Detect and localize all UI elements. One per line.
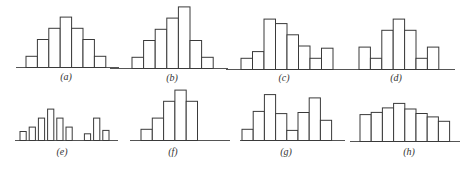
histogram-bar	[310, 58, 322, 69]
histogram-bar	[264, 95, 275, 141]
panel-caption: (e)	[56, 146, 68, 158]
histogram-panel-a: (a)	[16, 17, 119, 83]
histogram-bar	[94, 56, 105, 67]
histogram-panel-g: (g)	[240, 95, 345, 158]
histogram-bar	[276, 114, 287, 141]
histogram-bar	[405, 30, 416, 69]
histogram-bar	[309, 98, 320, 141]
histogram-bar	[48, 109, 54, 140]
histogram-bar	[299, 46, 311, 70]
panel-caption: (f)	[168, 146, 178, 158]
histogram-bar	[178, 7, 190, 69]
histogram-bar	[202, 57, 214, 68]
panel-caption: (a)	[60, 71, 72, 83]
histogram-bar	[320, 120, 331, 140]
histogram-bar	[94, 118, 100, 140]
histogram-bar	[370, 58, 381, 69]
histogram-panel-b: (b)	[110, 7, 228, 84]
histogram-figure: (a) (b) (c) (d) (e) (f) (g) (h)	[0, 0, 465, 174]
histogram-panel-d: (d)	[342, 19, 455, 84]
histogram-panel-h: (h)	[350, 103, 460, 158]
histogram-bar	[190, 41, 202, 69]
histogram-bar	[416, 58, 427, 69]
histogram-bar	[84, 134, 90, 141]
panel-caption: (h)	[403, 146, 415, 158]
histogram-bar	[83, 40, 94, 68]
histogram-bar	[298, 113, 309, 141]
histogram-bar	[427, 47, 438, 69]
histogram-bar	[141, 129, 152, 140]
histogram-bar	[371, 112, 382, 141]
histogram-bar	[287, 35, 299, 70]
histogram-panel-e: (e)	[15, 109, 118, 158]
histogram-bar	[242, 129, 253, 140]
histogram-bar	[144, 41, 156, 69]
histogram-bar	[132, 57, 144, 68]
panel-caption: (g)	[280, 146, 292, 158]
histogram-bar	[405, 109, 416, 142]
histogram-bar	[49, 28, 60, 67]
histogram-bar	[103, 130, 109, 140]
histogram-bar	[175, 90, 186, 140]
histogram-bar	[155, 29, 167, 68]
histogram-bar	[276, 24, 288, 70]
histogram-bar	[60, 17, 71, 67]
histogram-bar	[38, 118, 44, 140]
histogram-bar	[167, 18, 179, 68]
histogram-bar	[26, 56, 37, 67]
histogram-bar	[322, 48, 334, 69]
histogram-bar	[37, 40, 48, 68]
histogram-bar	[382, 30, 393, 69]
histogram-bar	[360, 115, 371, 142]
histogram-bar	[253, 111, 264, 140]
histogram-bar	[427, 117, 438, 142]
histogram-bar	[241, 58, 253, 69]
histogram-bar	[186, 101, 197, 140]
histogram-bar	[416, 114, 427, 142]
histogram-bar	[382, 108, 393, 142]
panel-caption: (d)	[390, 72, 402, 84]
panel-caption: (b)	[166, 72, 178, 84]
histogram-bar	[72, 28, 83, 67]
histogram-bar	[253, 52, 265, 70]
histogram-bar	[359, 47, 370, 69]
histogram-bar	[29, 127, 35, 140]
histogram-bar	[66, 127, 72, 140]
histogram-bar	[20, 132, 26, 141]
histogram-bar	[264, 19, 276, 69]
histogram-bar	[164, 101, 175, 140]
histogram-bar	[287, 130, 298, 140]
histogram-bar	[57, 118, 63, 140]
histogram-bar	[393, 19, 404, 69]
panel-caption: (c)	[278, 72, 290, 84]
histogram-bar	[394, 103, 405, 141]
histogram-panel-c: (c)	[226, 19, 345, 84]
histogram-bar	[438, 121, 449, 141]
histogram-panel-f: (f)	[130, 90, 230, 158]
histogram-bar	[152, 118, 163, 140]
